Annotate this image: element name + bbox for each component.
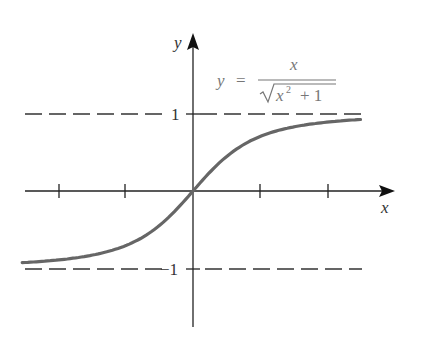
y-tick-label-1: 1: [171, 105, 180, 124]
equation-lhs: y: [215, 71, 225, 90]
equation-equals: =: [236, 71, 246, 90]
equation-den-x: x: [275, 86, 284, 105]
chart-figure: y x 1 −1 y = x x 2 + 1: [0, 0, 426, 342]
y-tick-label-neg1: −1: [160, 260, 178, 279]
sqrt-sign-icon: [260, 84, 336, 102]
x-axis-label: x: [380, 198, 389, 217]
equation-den-exp: 2: [286, 84, 291, 95]
equation-den-rest: + 1: [300, 86, 322, 105]
chart-svg: y x 1 −1 y = x x 2 + 1: [0, 0, 426, 342]
function-equation: y = x x 2 + 1: [215, 55, 336, 105]
equation-numerator: x: [289, 55, 298, 74]
y-axis-label: y: [172, 33, 182, 52]
